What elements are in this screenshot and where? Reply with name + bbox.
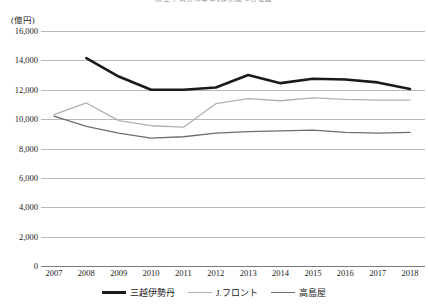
legend-item-J.フロント[interactable]: J.フロント [188,286,258,299]
x-axis-tick-label: 2009 [110,268,127,278]
y-axis-unit-label: (億円) [11,13,35,25]
chart-legend: 三越伊勢丹J.フロント高島屋 [0,286,428,299]
gridline [41,31,425,32]
x-axis-tick-label: 2014 [272,268,289,278]
y-axis-tick-label: 10,000 [0,114,38,124]
x-axis-tick-label: 2013 [240,268,257,278]
y-axis-tick-label: 0 [0,261,38,271]
gridline [41,90,425,91]
y-axis-tick-label: 6,000 [0,173,38,183]
legend-label: 高島屋 [299,286,326,299]
gridline [41,237,425,238]
y-axis-tick-label: 12,000 [0,85,38,95]
plot-area [41,31,425,266]
y-axis-tick-label: 2,000 [0,232,38,242]
x-axis-line [41,266,425,267]
legend-label: J.フロント [216,286,258,299]
line-chart: 図表 1 百貨店大手3社の売上高推移 (億円) 02,0004,0006,000… [0,0,428,305]
x-axis-tick-label: 2015 [304,268,321,278]
legend-swatch-icon [271,292,295,293]
gridline [41,178,425,179]
legend-item-高島屋[interactable]: 高島屋 [271,286,326,299]
gridline [41,207,425,208]
x-axis-tick-label: 2012 [207,268,224,278]
y-axis-tick-label: 4,000 [0,202,38,212]
legend-item-三越伊勢丹[interactable]: 三越伊勢丹 [102,286,175,299]
legend-label: 三越伊勢丹 [130,286,175,299]
gridline [41,149,425,150]
gridline [41,119,425,120]
chart-title: 図表 1 百貨店大手3社の売上高推移 [0,0,428,2]
y-axis-tick-labels: 02,0004,0006,0008,00010,00012,00014,0001… [0,31,38,266]
x-axis-tick-label: 2007 [46,268,63,278]
y-axis-tick-label: 14,000 [0,55,38,65]
x-axis-tick-label: 2011 [175,268,192,278]
y-axis-tick-label: 8,000 [0,144,38,154]
x-axis-tick-label: 2018 [402,268,419,278]
gridline [41,60,425,61]
y-axis-tick-label: 16,000 [0,26,38,36]
x-axis-tick-label: 2017 [369,268,386,278]
x-axis-tick-label: 2010 [143,268,160,278]
x-axis-tick-label: 2016 [337,268,354,278]
legend-swatch-icon [188,292,212,293]
x-axis-tick-label: 2008 [78,268,95,278]
legend-swatch-icon [102,291,126,294]
